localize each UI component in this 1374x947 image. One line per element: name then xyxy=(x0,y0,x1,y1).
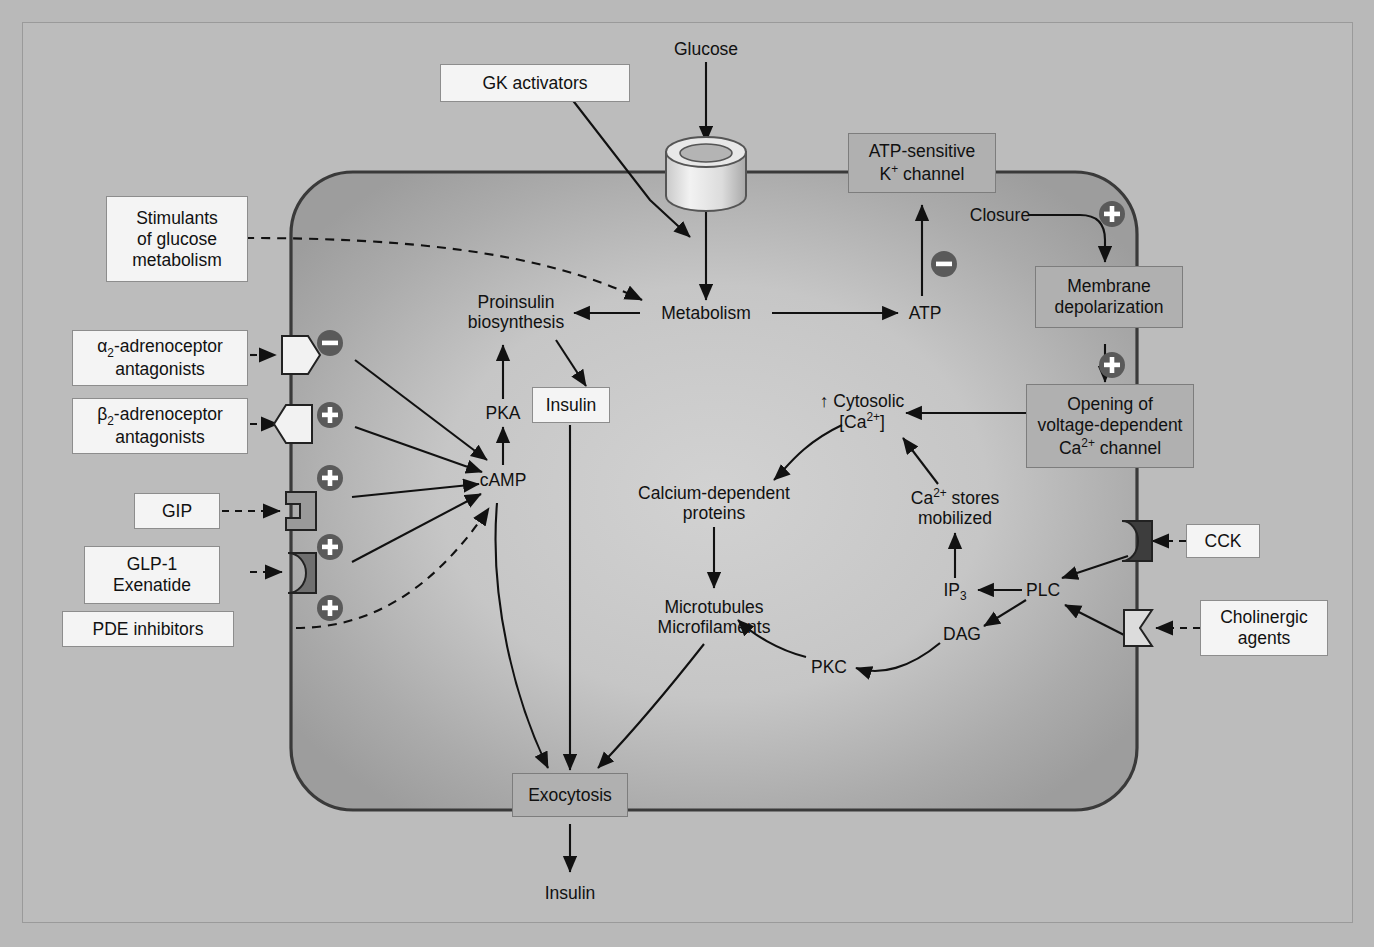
ca-channel-box[interactable]: Opening ofvoltage-dependentCa2+ channel xyxy=(1026,384,1194,468)
exocytosis-box[interactable]: Exocytosis xyxy=(512,773,628,817)
cytosolic-ca-label: ↑ Cytosolic[Ca2+] xyxy=(820,391,905,432)
gip-box[interactable]: GIP xyxy=(134,493,220,529)
symbol-depol xyxy=(1099,352,1125,378)
symbol-beta2 xyxy=(317,402,343,428)
pkc-label: PKC xyxy=(811,657,847,677)
katp-channel-box[interactable]: ATP-sensitiveK+ channel xyxy=(848,133,996,193)
insulin-box[interactable]: Insulin xyxy=(532,387,610,423)
modulator-symbol-layer xyxy=(0,0,1374,947)
figure-canvas: Glucose GK activators Stimulants of gluc… xyxy=(0,0,1374,947)
beta2-box[interactable]: β2-adrenoceptorantagonists xyxy=(72,398,248,454)
closure-label: Closure xyxy=(970,205,1030,225)
calcium-proteins-label: Calcium-dependent proteins xyxy=(638,483,790,524)
glucose-label: Glucose xyxy=(674,39,738,59)
symbol-glp1 xyxy=(317,534,343,560)
cholinergic-box[interactable]: Cholinergic agents xyxy=(1200,600,1328,656)
dag-label: DAG xyxy=(943,624,981,644)
insulin-output-label: Insulin xyxy=(545,883,596,903)
modulator-symbols xyxy=(317,201,1125,621)
ca-stores-label: Ca2+ storesmobilized xyxy=(911,487,999,528)
gk-activators-box[interactable]: GK activators xyxy=(440,64,630,102)
glp1-box[interactable]: GLP-1 Exenatide xyxy=(84,546,220,604)
proinsulin-label: Proinsulin biosynthesis xyxy=(468,292,564,333)
pde-box[interactable]: PDE inhibitors xyxy=(62,611,234,647)
microtubules-label: Microtubules Microfilaments xyxy=(658,597,771,638)
camp-label: cAMP xyxy=(480,470,527,490)
cck-box[interactable]: CCK xyxy=(1186,524,1260,558)
symbol-pde xyxy=(317,595,343,621)
membrane-depolarization-box[interactable]: Membrane depolarization xyxy=(1035,266,1183,328)
symbol-alpha2 xyxy=(317,330,343,356)
alpha2-box[interactable]: α2-adrenoceptorantagonists xyxy=(72,330,248,386)
symbol-atp-inhibition xyxy=(931,251,957,277)
atp-label: ATP xyxy=(909,303,942,323)
stimulants-box[interactable]: Stimulants of glucose metabolism xyxy=(106,196,248,282)
symbol-closure xyxy=(1099,201,1125,227)
ip3-label: IP3 xyxy=(943,580,966,604)
pka-label: PKA xyxy=(485,403,520,423)
plc-label: PLC xyxy=(1026,580,1060,600)
metabolism-label: Metabolism xyxy=(661,303,750,323)
symbol-gip xyxy=(317,465,343,491)
